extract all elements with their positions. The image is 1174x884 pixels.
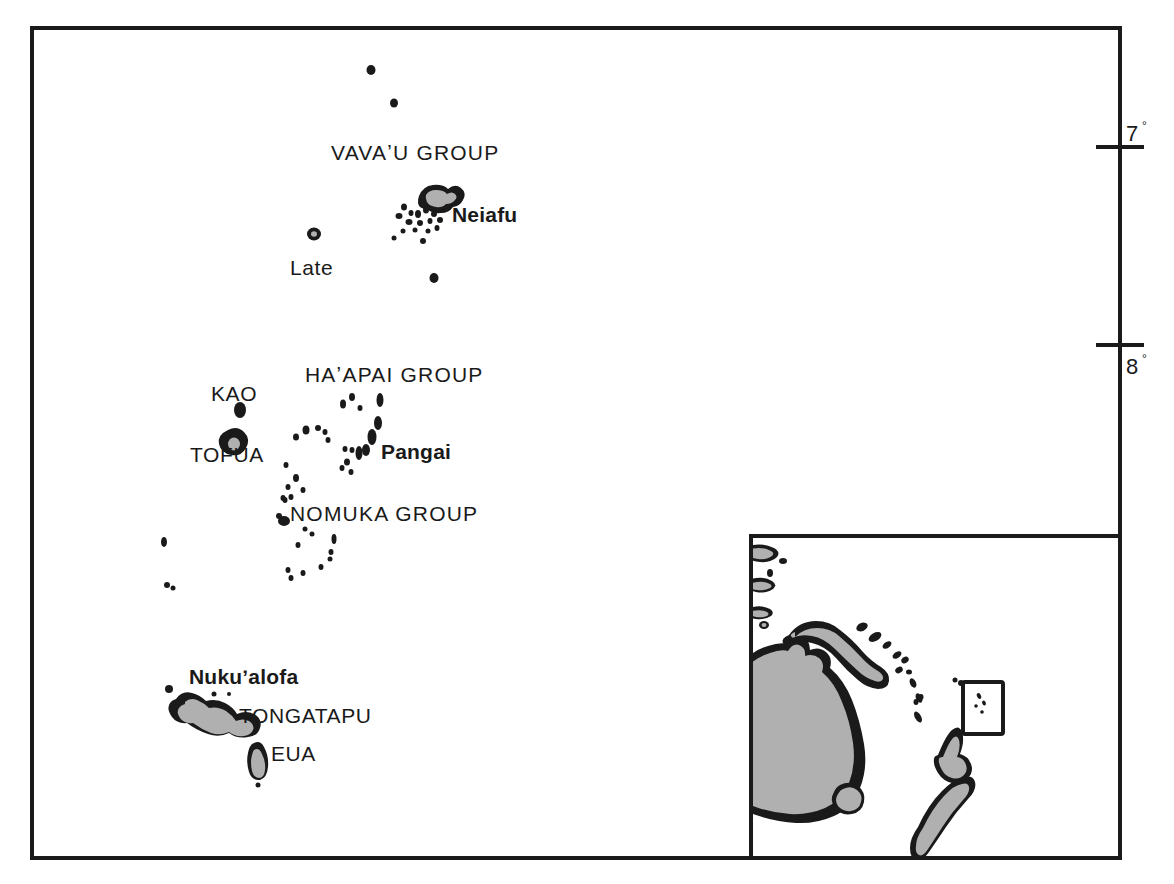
label-tofua: TOFUA (190, 443, 264, 466)
label-late: Late (290, 256, 333, 279)
label-tongatapu: TONGATAPU (239, 704, 372, 727)
map-canvas: VAVAʼU GROUP Neiafu Late HAʼAPAI GROUP K… (0, 0, 1174, 884)
tonga-locator-box (963, 682, 1003, 734)
label-haapai-group: HAʼAPAI GROUP (305, 363, 484, 386)
label-latitude-7: 7 (1126, 121, 1138, 146)
label-nomuka-group: NOMUKA GROUP (290, 502, 478, 525)
label-eua: EUA (271, 742, 316, 765)
vavau-island-cluster (367, 65, 465, 283)
label-kao: KAO (211, 382, 257, 405)
late-island (307, 228, 321, 241)
label-nukualofa: Nukuʼalofa (189, 665, 298, 688)
eua-island (247, 742, 268, 787)
locator-inset (694, 534, 1123, 860)
degree-symbol-7: ° (1142, 119, 1147, 133)
label-neiafu: Neiafu (452, 203, 517, 226)
label-vavau-group: VAVAʼU GROUP (331, 141, 499, 164)
degree-symbol-8: ° (1142, 352, 1147, 366)
label-latitude-8: 8 (1126, 354, 1138, 379)
label-pangai: Pangai (381, 440, 451, 463)
tonga-reference-map: VAVAʼU GROUP Neiafu Late HAʼAPAI GROUP K… (0, 0, 1174, 884)
haapai-island-cluster (283, 393, 384, 503)
